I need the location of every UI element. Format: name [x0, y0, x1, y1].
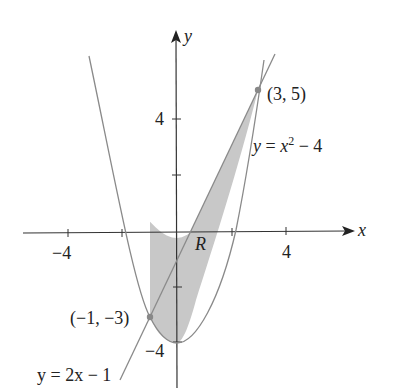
- x-tick-label-neg4: −4: [52, 243, 71, 263]
- point-label-3-5: (3, 5): [267, 84, 306, 105]
- y-tick-label-neg4: −4: [145, 341, 164, 361]
- y-tick-label-4: 4: [155, 109, 164, 129]
- x-tick-label-4: 4: [282, 242, 291, 262]
- parabola-equation: y = x2 − 4: [251, 134, 322, 156]
- line-curve: [120, 54, 275, 380]
- x-axis: [23, 231, 348, 233]
- point-label-neg1-neg3: (−1, −3): [70, 308, 129, 329]
- graph: y x 4 −4 −4 4 R (3, 5) (−1, −3) y = x2 −…: [0, 0, 395, 392]
- shaded-region-r-fill: [150, 90, 258, 343]
- x-axis-label: x: [357, 220, 366, 240]
- region-label: R: [194, 234, 206, 254]
- y-axis-label: y: [182, 26, 192, 46]
- intersection-point: [255, 87, 261, 93]
- intersection-point: [147, 314, 153, 320]
- line-equation: y = 2x − 1: [37, 365, 111, 385]
